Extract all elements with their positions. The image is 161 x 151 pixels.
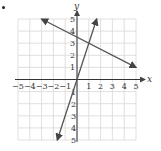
y-tick-label: 1 [70, 63, 75, 72]
x-tick-label: −1 [59, 82, 71, 91]
y-tick-label: 4 [71, 124, 76, 133]
x-tick-label: 1 [86, 82, 91, 91]
y-axis-label: y [73, 1, 80, 11]
x-tick-label: −4 [24, 82, 36, 91]
y-tick-label: 5 [70, 15, 75, 24]
y-tick-label: 5 [71, 136, 76, 145]
x-tick-label: 4 [122, 82, 127, 91]
y-tick-label: 3 [71, 112, 76, 121]
x-tick-label: −3 [36, 82, 48, 91]
x-tick-label: −5 [12, 82, 24, 91]
x-tick-label: 3 [110, 82, 115, 91]
y-tick-label: 3 [70, 39, 75, 48]
x-tick-label: −2 [48, 82, 60, 91]
x-tick-label: 5 [133, 82, 138, 91]
x-tick-label: 2 [98, 82, 103, 91]
y-tick-label: 2 [71, 100, 76, 109]
coordinate-graph: x y −5−4−3−2−112345 1234512345 [0, 0, 161, 151]
y-tick-label: 2 [70, 51, 75, 60]
x-axis-label: x [147, 74, 152, 84]
